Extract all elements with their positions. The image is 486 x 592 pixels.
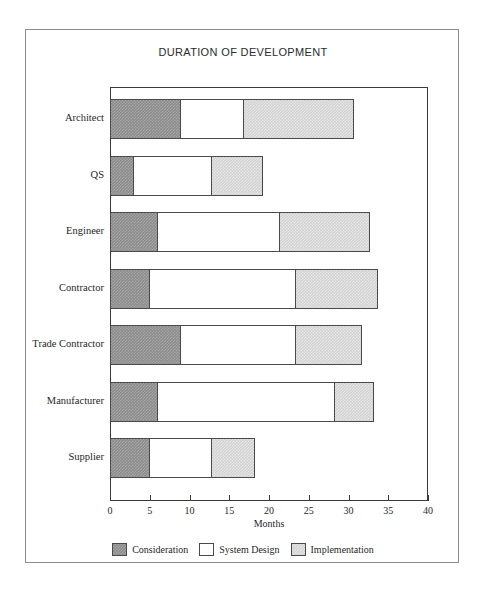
x-tick-mark (190, 495, 191, 501)
bar-row (110, 430, 428, 487)
legend-item: Consideration (112, 543, 188, 556)
y-axis-label: Contractor (0, 282, 104, 293)
y-axis-label: Engineer (0, 225, 104, 236)
y-axis-label: Manufacturer (0, 395, 104, 406)
bar-row (110, 204, 428, 261)
x-tick-label: 40 (423, 505, 433, 516)
legend-label: System Design (219, 544, 279, 555)
bar-segment-system-design (157, 382, 336, 422)
bar-segment-system-design (180, 99, 244, 139)
bars-layer (110, 87, 428, 501)
x-tick-mark (349, 495, 350, 501)
stacked-bar (110, 156, 263, 196)
stacked-bar (110, 99, 354, 139)
bar-segment-consideration (110, 325, 182, 365)
bar-segment-consideration (110, 382, 158, 422)
legend-item: System Design (199, 543, 279, 556)
x-tick-label: 5 (147, 505, 152, 516)
bar-segment-system-design (149, 269, 296, 309)
chart-legend: ConsiderationSystem DesignImplementation (0, 543, 486, 556)
bar-segment-system-design (149, 438, 213, 478)
bar-segment-implementation (211, 438, 255, 478)
bar-segment-consideration (110, 99, 182, 139)
x-tick-mark (428, 495, 429, 501)
bar-segment-system-design (180, 325, 295, 365)
legend-label: Implementation (311, 544, 374, 555)
x-tick-mark (388, 495, 389, 501)
x-tick-label: 10 (185, 505, 195, 516)
y-axis-label: Supplier (0, 451, 104, 462)
x-tick-mark (309, 495, 310, 501)
x-tick-mark (229, 495, 230, 501)
bar-row (110, 261, 428, 318)
x-tick-label: 30 (344, 505, 354, 516)
bar-row (110, 374, 428, 431)
bar-segment-implementation (279, 212, 370, 252)
bar-segment-consideration (110, 212, 158, 252)
x-tick-mark (110, 495, 111, 501)
bar-segment-consideration (110, 438, 150, 478)
chart-page: DURATION OF DEVELOPMENT ArchitectQSEngin… (0, 0, 486, 592)
chart-title: DURATION OF DEVELOPMENT (0, 46, 486, 58)
stacked-bar (110, 438, 255, 478)
x-axis-title: Months (110, 518, 428, 529)
bar-segment-system-design (133, 156, 213, 196)
y-axis-label: Trade Contractor (0, 338, 104, 349)
bar-segment-implementation (211, 156, 263, 196)
legend-swatch-icon (199, 543, 214, 556)
bar-row (110, 317, 428, 374)
bar-segment-implementation (295, 269, 378, 309)
x-tick-label: 25 (304, 505, 314, 516)
y-axis-label: QS (0, 169, 104, 180)
y-axis-label: Architect (0, 112, 104, 123)
stacked-bar (110, 212, 370, 252)
bar-row (110, 148, 428, 205)
bar-row (110, 91, 428, 148)
bar-segment-consideration (110, 269, 150, 309)
legend-label: Consideration (132, 544, 188, 555)
bar-segment-system-design (157, 212, 280, 252)
x-tick-label: 0 (108, 505, 113, 516)
bar-segment-implementation (295, 325, 363, 365)
legend-item: Implementation (291, 543, 374, 556)
x-tick-label: 15 (224, 505, 234, 516)
bar-segment-implementation (243, 99, 354, 139)
bar-segment-consideration (110, 156, 134, 196)
stacked-bar (110, 269, 378, 309)
stacked-bar (110, 325, 362, 365)
legend-swatch-icon (112, 543, 127, 556)
x-tick-mark (269, 495, 270, 501)
legend-swatch-icon (291, 543, 306, 556)
x-tick-mark (150, 495, 151, 501)
x-tick-label: 35 (383, 505, 393, 516)
y-axis-category-labels: ArchitectQSEngineerContractorTrade Contr… (0, 87, 104, 501)
x-tick-label: 20 (264, 505, 274, 516)
stacked-bar (110, 382, 374, 422)
bar-segment-implementation (334, 382, 374, 422)
